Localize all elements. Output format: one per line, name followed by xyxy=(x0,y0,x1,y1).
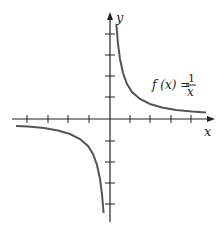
curve-branch-positive xyxy=(116,25,206,113)
x-axis-arrow-icon xyxy=(207,116,215,122)
reciprocal-function-graph: y x f (x) = 1 x xyxy=(0,0,221,230)
x-axis-label: x xyxy=(204,124,212,139)
function-label-denominator: x xyxy=(187,85,194,99)
function-label-lhs: f (x) = xyxy=(151,78,190,92)
y-axis-label: y xyxy=(115,10,124,25)
curve-branch-negative xyxy=(16,126,104,213)
function-label: f (x) = 1 x xyxy=(151,72,196,99)
y-axis-arrow-icon xyxy=(107,12,113,20)
function-label-numerator: 1 xyxy=(188,72,195,85)
